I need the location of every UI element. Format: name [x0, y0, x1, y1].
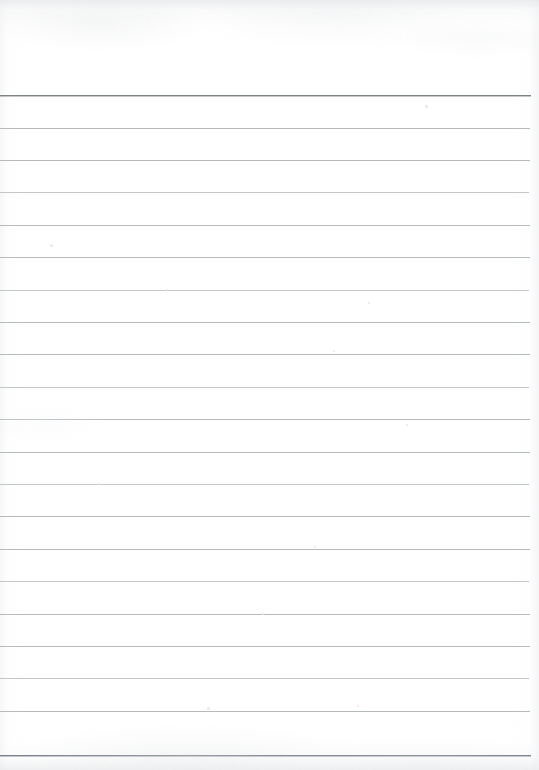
ruled-line	[0, 678, 529, 679]
ruled-line	[0, 128, 530, 129]
ruled-line	[0, 484, 529, 485]
ruled-line	[0, 516, 530, 517]
scan-speck	[314, 546, 316, 548]
scan-speck	[406, 424, 408, 426]
ruled-line	[0, 452, 530, 453]
scan-speck	[357, 705, 359, 707]
ruled-line	[0, 354, 530, 355]
ruled-line	[0, 290, 529, 291]
scan-speck	[425, 105, 428, 108]
ruled-line	[0, 711, 530, 712]
ruled-line	[0, 225, 530, 226]
scan-speck	[368, 302, 370, 304]
ruled-line	[0, 755, 531, 756]
ruled-line	[0, 387, 529, 388]
ruled-line	[0, 419, 530, 420]
scan-speck	[50, 244, 53, 247]
ruled-line	[0, 581, 529, 582]
ruled-line	[0, 614, 530, 615]
scanned-page	[0, 0, 539, 770]
ruled-line	[0, 95, 531, 96]
ruled-line	[0, 257, 530, 258]
ruled-line	[0, 192, 529, 193]
scan-speck	[207, 707, 210, 710]
ruled-line	[0, 646, 530, 647]
scan-speck	[333, 350, 335, 352]
ruled-lines-group	[0, 0, 539, 770]
ruled-line	[0, 160, 530, 161]
ruled-line	[0, 322, 530, 323]
ruled-line	[0, 549, 530, 550]
